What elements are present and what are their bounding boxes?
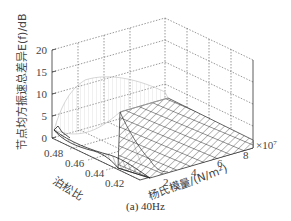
y-axis-label: 泊松比 bbox=[50, 174, 85, 203]
z-axis-ticks: 20 15 10 5 0 bbox=[36, 44, 48, 144]
surface-flat-mesh bbox=[118, 98, 253, 178]
x-multiplier: ×107 bbox=[256, 139, 277, 151]
y-tick: 0.42 bbox=[105, 177, 124, 189]
y-tick: 0.44 bbox=[85, 167, 105, 179]
x-tick: 8 bbox=[243, 149, 249, 161]
z-tick: 15 bbox=[36, 66, 48, 78]
figure-caption: (a) 40Hz bbox=[0, 200, 291, 212]
z-tick: 5 bbox=[42, 110, 48, 122]
z-tick: 20 bbox=[36, 44, 48, 56]
z-tick: 0 bbox=[42, 132, 48, 144]
z-axis-label: 节点均方振速总差异E(f)/dB bbox=[15, 13, 29, 150]
y-tick: 0.46 bbox=[65, 157, 85, 169]
z-tick: 10 bbox=[36, 88, 48, 100]
y-tick: 0.48 bbox=[44, 147, 64, 159]
surface-plot: 20 15 10 5 0 0.48 0.46 0.44 0.42 2 4 6 8… bbox=[0, 0, 291, 221]
